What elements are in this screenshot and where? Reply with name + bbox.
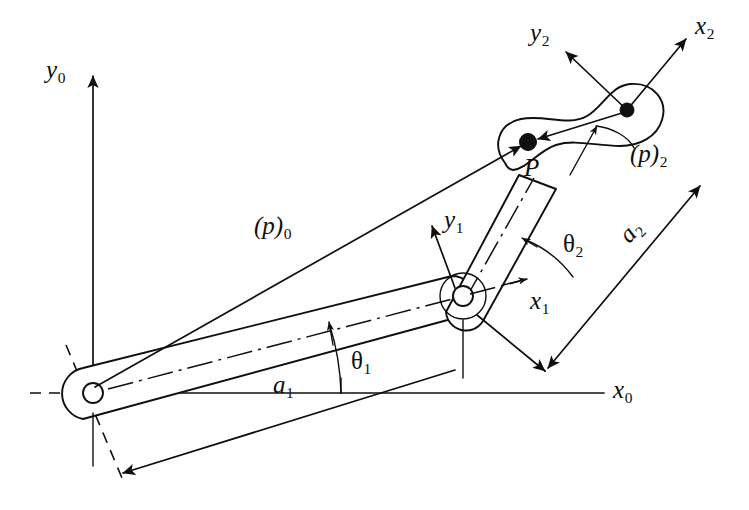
dimension-label-a1: a1 xyxy=(273,372,293,397)
dimension-a2-line xyxy=(548,186,700,368)
vector-label-p0: (p)0 xyxy=(254,213,291,238)
base-joint-1 xyxy=(83,383,103,403)
dimension-a2-leg-lower xyxy=(477,315,545,371)
elbow-joint-2 xyxy=(453,286,473,306)
axis-label-x0: x0 xyxy=(613,377,632,402)
axis-label-y2: y2 xyxy=(530,20,549,45)
angle-label-theta1: θ1 xyxy=(351,348,371,373)
diagram-canvas xyxy=(0,0,749,510)
axis-label-x2: x2 xyxy=(695,13,714,38)
angle-label-theta2: θ2 xyxy=(563,231,583,256)
axis-label-x1: x1 xyxy=(530,288,549,313)
axis-label-y1: y1 xyxy=(444,207,463,232)
axis-y2-line xyxy=(566,52,627,110)
manipulator-diagram: y0 x0 y1 x1 y2 x2 θ1 θ2 a1 a2 (p)0 (p)2 … xyxy=(0,0,749,510)
point-label-p: P xyxy=(524,155,539,180)
tool-point-p-dot xyxy=(520,134,537,151)
axis-label-y0: y0 xyxy=(46,57,65,82)
vector-label-p2: (p)2 xyxy=(630,141,667,166)
